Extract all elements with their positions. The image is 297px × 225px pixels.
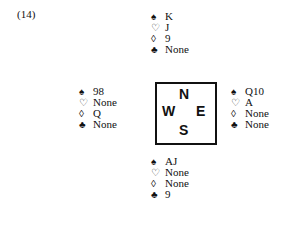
west-clubs: None <box>93 119 117 130</box>
heart-icon: ♡ <box>231 97 245 108</box>
diamond-icon: ◊ <box>151 33 165 44</box>
heart-icon: ♡ <box>151 22 165 33</box>
north-clubs: None <box>165 44 189 55</box>
north-clubs-row: ♣ None <box>151 44 189 55</box>
compass-north: N <box>179 86 189 102</box>
east-clubs: None <box>245 119 269 130</box>
problem-number: (14) <box>17 8 35 20</box>
compass-west: W <box>162 103 175 119</box>
south-hand: ♠ AJ ♡ None ◊ None ♣ 9 <box>151 156 189 200</box>
club-icon: ♣ <box>79 119 93 130</box>
east-clubs-row: ♣ None <box>231 119 269 130</box>
north-spades-row: ♠ K <box>151 11 189 22</box>
compass-south: S <box>179 122 188 138</box>
east-hand: ♠ Q10 ♡ A ◊ None ♣ None <box>231 86 269 130</box>
south-clubs: 9 <box>165 189 171 200</box>
diamond-icon: ◊ <box>151 178 165 189</box>
south-clubs-row: ♣ 9 <box>151 189 189 200</box>
diamond-icon: ◊ <box>79 108 93 119</box>
compass-box: N W E S <box>155 82 217 145</box>
diamond-icon: ◊ <box>231 108 245 119</box>
club-icon: ♣ <box>231 119 245 130</box>
spade-icon: ♠ <box>79 86 93 97</box>
club-icon: ♣ <box>151 189 165 200</box>
club-icon: ♣ <box>151 44 165 55</box>
heart-icon: ♡ <box>79 97 93 108</box>
north-hand: ♠ K ♡ J ◊ 9 ♣ None <box>151 11 189 55</box>
west-clubs-row: ♣ None <box>79 119 117 130</box>
spade-icon: ♠ <box>151 156 165 167</box>
heart-icon: ♡ <box>151 167 165 178</box>
west-hand: ♠ 98 ♡ None ◊ Q ♣ None <box>79 86 117 130</box>
compass-east: E <box>196 103 205 119</box>
spade-icon: ♠ <box>231 86 245 97</box>
spade-icon: ♠ <box>151 11 165 22</box>
